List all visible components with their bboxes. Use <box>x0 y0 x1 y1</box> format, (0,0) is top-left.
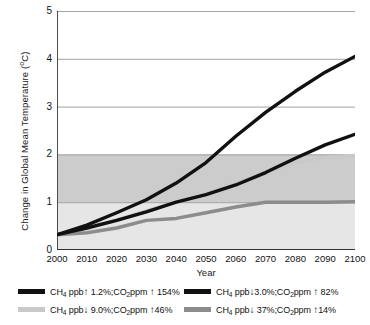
y-tick-label: 1 <box>38 197 52 207</box>
y-tick-label: 3 <box>38 102 52 112</box>
legend-swatch-series-1 <box>18 289 45 294</box>
y-axis-title-tail: C) <box>19 52 30 62</box>
legend-swatch-series-4 <box>184 307 211 312</box>
y-axis-title-text: Change in Global Mean Temperature ( <box>19 66 30 231</box>
plot-area <box>57 11 355 250</box>
legend-swatch-series-3 <box>18 307 45 312</box>
chart-legend: CH4 ppb↑ 1.2%;CO2ppm ↑ 154% CH4 ppb↓3.0%… <box>8 283 360 321</box>
plot-svg <box>57 11 355 250</box>
x-tick-labels: 2000201020202030204020502060207020802090… <box>57 253 355 267</box>
legend-row: CH4 ppb↓ 9.0%;CO2ppm ↑46% CH4 ppb↓ 37%;C… <box>8 301 360 318</box>
legend-item-series-1[interactable]: CH4 ppb↑ 1.2%;CO2ppm ↑ 154% <box>8 283 182 300</box>
y-tick-label: 2 <box>38 149 52 159</box>
legend-label-series-4: CH4 ppb↓ 37%;CO2ppm ↑14% <box>216 305 336 315</box>
degree-symbol: o <box>18 62 25 66</box>
legend-item-series-3[interactable]: CH4 ppb↓ 9.0%;CO2ppm ↑46% <box>8 301 182 318</box>
y-axis-title: Change in Global Mean Temperature (oC) <box>18 21 30 261</box>
legend-item-series-4[interactable]: CH4 ppb↓ 37%;CO2ppm ↑14% <box>182 301 360 318</box>
legend-label-series-3: CH4 ppb↓ 9.0%;CO2ppm ↑46% <box>50 305 172 315</box>
legend-item-series-2[interactable]: CH4 ppb↓3.0%;CO2ppm ↑ 82% <box>182 283 360 300</box>
y-tick-label: 4 <box>38 54 52 64</box>
legend-label-series-1: CH4 ppb↑ 1.2%;CO2ppm ↑ 154% <box>50 287 180 297</box>
y-tick-label: 5 <box>38 6 52 16</box>
legend-swatch-series-2 <box>184 289 211 294</box>
x-tick-label: 2100 <box>335 253 370 265</box>
legend-row: CH4 ppb↑ 1.2%;CO2ppm ↑ 154% CH4 ppb↓3.0%… <box>8 283 360 300</box>
x-axis-title: Year <box>57 267 355 278</box>
legend-label-series-2: CH4 ppb↓3.0%;CO2ppm ↑ 82% <box>216 287 338 297</box>
y-tick-labels: 543210 <box>36 0 52 260</box>
